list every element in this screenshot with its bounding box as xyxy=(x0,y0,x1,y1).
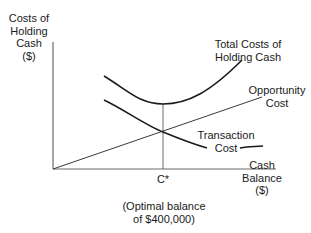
optimal-balance-note-line: of $400,000) xyxy=(112,213,216,226)
optimal-balance-note-line: (Optimal balance xyxy=(112,200,216,213)
y-axis-label-line: Cash xyxy=(8,37,50,50)
y-axis-label-line: Holding xyxy=(8,25,50,38)
y-axis-label: Costs of Holding Cash ($) xyxy=(8,12,50,62)
x-axis-label-line: Cash xyxy=(236,159,288,172)
opportunity-cost-label-line: Opportunity xyxy=(244,84,310,97)
c-star-label: C* xyxy=(153,173,173,186)
total-cost-label-line: Total Costs of xyxy=(208,38,288,51)
total-cost-curve xyxy=(104,60,242,104)
y-axis-label-line: Costs of xyxy=(8,12,50,25)
transaction-cost-label-line: Cost xyxy=(196,142,256,155)
x-axis-label-line: ($) xyxy=(236,184,288,197)
x-axis-label-line: Balance xyxy=(236,172,288,185)
transaction-cost-curve xyxy=(104,100,207,148)
transaction-cost-label: Transaction Cost xyxy=(196,129,256,154)
x-axis-label: Cash Balance ($) xyxy=(236,159,288,197)
opportunity-cost-label-line: Cost xyxy=(244,97,310,110)
transaction-cost-label-line: Transaction xyxy=(196,129,256,142)
total-cost-label-line: Holding Cash xyxy=(208,51,288,64)
y-axis-label-line: ($) xyxy=(8,50,50,63)
opportunity-cost-label: Opportunity Cost xyxy=(244,84,310,109)
optimal-balance-note: (Optimal balance of $400,000) xyxy=(112,200,216,225)
total-cost-label: Total Costs of Holding Cash xyxy=(208,38,288,63)
